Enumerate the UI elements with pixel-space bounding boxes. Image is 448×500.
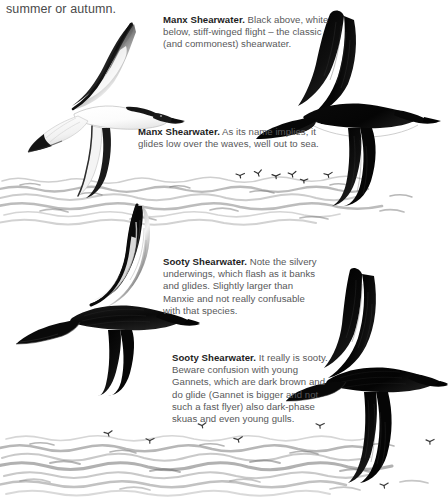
sea-band-lower	[0, 425, 448, 500]
caption-species-name: Manx Shearwater.	[163, 14, 245, 25]
caption-species-name: Sooty Shearwater.	[172, 352, 256, 363]
running-text-fragment: summer or autumn.	[6, 2, 116, 17]
caption-sooty-underwing: Sooty Shearwater. Note the silvery under…	[163, 256, 323, 317]
caption-species-name: Sooty Shearwater.	[163, 256, 247, 267]
caption-manx-underside: Manx Shearwater. Black above, white belo…	[163, 14, 341, 51]
caption-species-name: Manx Shearwater.	[138, 126, 220, 137]
caption-sooty-upperside: Sooty Shearwater. It really is sooty. Be…	[172, 352, 338, 425]
figure-manx-shearwater-underside	[16, 8, 186, 198]
caption-manx-glide: Manx Shearwater. As its name implies, it…	[138, 126, 320, 150]
distant-flock-upper	[238, 170, 348, 196]
sea-band-upper	[0, 163, 448, 229]
shearwater-identification-plate: summer or autumn.	[0, 0, 448, 500]
